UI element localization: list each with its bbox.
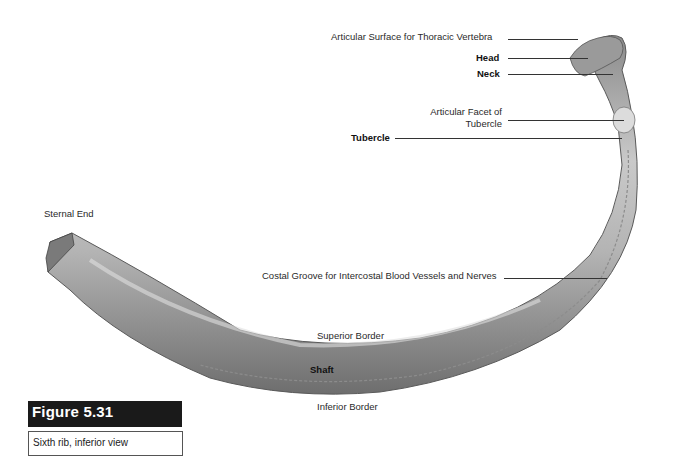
label-costal-groove: Costal Groove for Intercostal Blood Vess… [262, 270, 496, 281]
leader-articular-facet [508, 120, 624, 121]
leader-costal-groove [504, 278, 607, 279]
label-inferior-border: Inferior Border [317, 401, 378, 412]
rib-illustration [0, 0, 694, 466]
label-shaft: Shaft [310, 364, 334, 375]
figure-caption: Sixth rib, inferior view [33, 437, 128, 448]
label-superior-border: Superior Border [317, 330, 384, 341]
label-articular-surface: Articular Surface for Thoracic Vertebra [331, 31, 492, 42]
label-articular-facet-1: Articular Facet of [424, 106, 502, 117]
label-neck: Neck [477, 68, 500, 79]
leader-articular-surface [508, 39, 578, 40]
leader-head [508, 58, 588, 59]
label-articular-facet-2: Tubercle [424, 118, 502, 129]
leader-neck [508, 74, 613, 75]
figure-number: Figure 5.31 [32, 403, 113, 420]
leader-tubercle [395, 138, 622, 139]
label-tubercle: Tubercle [351, 132, 390, 143]
label-sternal-end: Sternal End [44, 208, 94, 219]
label-head: Head [476, 52, 499, 63]
